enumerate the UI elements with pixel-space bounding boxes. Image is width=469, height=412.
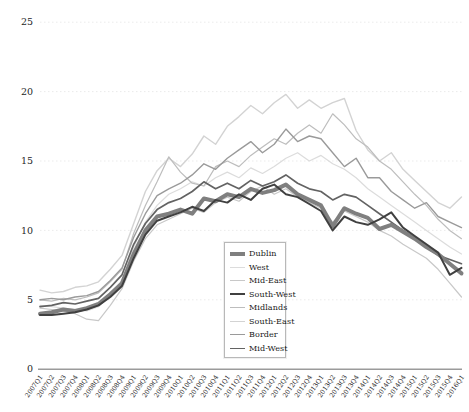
legend-swatch-midlands <box>230 307 245 308</box>
y-tick-label-25: 25 <box>21 16 33 27</box>
y-tick-label-0: 0 <box>27 363 33 374</box>
legend-label-west: West <box>249 263 269 272</box>
legend-item-south-east: South-East <box>230 315 283 328</box>
legend-swatch-south-east <box>230 321 245 322</box>
legend-swatch-mid-east <box>230 280 245 281</box>
y-tick-label-20: 20 <box>21 86 33 97</box>
legend-label-dublin: Dublin <box>249 249 277 258</box>
y-tick-label-10: 10 <box>21 225 33 236</box>
legend-swatch-border <box>230 334 245 335</box>
legend-item-mid-east: Mid-East <box>230 274 283 287</box>
legend-swatch-west <box>230 267 245 268</box>
regional-line-chart: 05101520252007Q12007Q22007Q32007Q42008Q1… <box>0 0 469 412</box>
legend-swatch-south-west <box>230 293 245 295</box>
legend-item-border: Border <box>230 328 283 341</box>
legend-swatch-dublin <box>230 252 245 256</box>
legend-label-mid-east: Mid-East <box>249 276 286 285</box>
legend-item-midlands: Midlands <box>230 301 283 314</box>
chart-legend: DublinWestMid-EastSouth-WestMidlandsSout… <box>224 242 286 358</box>
legend-label-midlands: Midlands <box>249 303 287 312</box>
legend-item-mid-west: Mid-West <box>230 342 283 355</box>
legend-label-mid-west: Mid-West <box>249 344 288 353</box>
y-tick-label-5: 5 <box>27 294 33 305</box>
legend-item-west: West <box>230 261 283 274</box>
legend-label-border: Border <box>249 330 278 339</box>
y-tick-label-15: 15 <box>21 155 33 166</box>
legend-item-dublin: Dublin <box>230 247 283 260</box>
legend-item-south-west: South-West <box>230 288 283 301</box>
legend-label-south-east: South-East <box>249 317 294 326</box>
legend-label-south-west: South-West <box>249 290 296 299</box>
legend-swatch-mid-west <box>230 348 245 349</box>
